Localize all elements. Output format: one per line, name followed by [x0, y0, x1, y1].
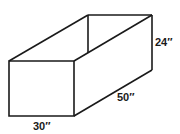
left-top-edge [9, 15, 88, 61]
length-label: 50″ [117, 91, 135, 103]
width-label: 30″ [33, 120, 51, 132]
front-face [9, 61, 74, 116]
height-label: 24″ [155, 36, 173, 48]
right-top-edge [74, 15, 152, 61]
bottom-right-edge [74, 70, 152, 116]
box-diagram: 24″ 50″ 30″ [0, 0, 180, 134]
